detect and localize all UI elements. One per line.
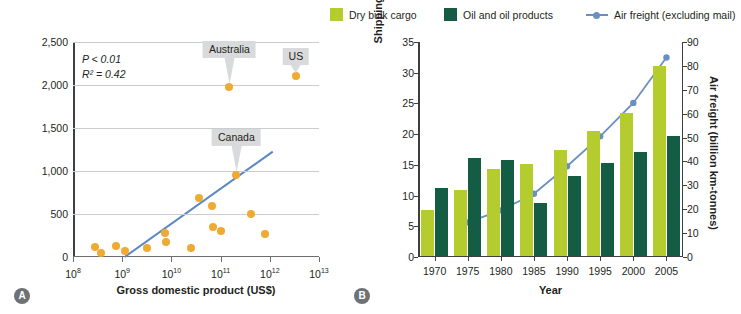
- panel-a-x-tick-mark: [319, 257, 320, 262]
- panel-a-x-axis-title: Gross domestic product (US$): [73, 284, 319, 296]
- panel-a-gridline: [73, 42, 319, 43]
- bar-oil-and-oil-products: [601, 163, 614, 256]
- panel-b-y-tick-mark-left: [414, 196, 418, 197]
- legend-item-label: Air freight (excluding mail): [614, 9, 735, 21]
- panel-b-x-axis-title: Year: [418, 284, 683, 296]
- panel-a-callout-label: Australia: [203, 41, 256, 58]
- panel-a-data-point: [208, 202, 216, 210]
- bar-oil-and-oil-products: [501, 160, 514, 256]
- panel-b-y-tick-label-left: 30: [374, 67, 414, 79]
- air-freight-marker: [663, 54, 669, 60]
- panel-b-y-tick-label-left: 10: [374, 190, 414, 202]
- bar-oil-and-oil-products: [667, 136, 680, 256]
- panel-b-x-tick-label: 1980: [489, 265, 512, 277]
- panel-a-x-tick-label: 1010: [162, 267, 181, 280]
- panel-b-y-tick-label-right: 70: [687, 84, 727, 96]
- panel-a-callout-tail: [291, 65, 301, 73]
- panel-a-tag-letter: A: [18, 291, 25, 301]
- panel-b-x-tick-mark: [534, 257, 535, 261]
- panel-b-y-tick-label-left: 20: [374, 128, 414, 140]
- panel-a-y-tick-label: 2,000: [8, 79, 68, 91]
- panel-b-y-tick-mark-left: [414, 165, 418, 166]
- figure-container: Non-native plant species richness P < 0.…: [0, 0, 741, 314]
- panel-a-plot-area: P < 0.01 R² = 0.42 05001,0001,5002,0002,…: [73, 42, 319, 257]
- bar-oil-and-oil-products: [568, 176, 581, 256]
- panel-a-callout: Australia: [203, 41, 256, 84]
- panel-b-x-tick-label: 1985: [522, 265, 545, 277]
- panel-a-x-tick-mark: [122, 257, 123, 262]
- panel-a-data-point: [225, 83, 233, 91]
- panel-b-x-tick-label: 1990: [555, 265, 578, 277]
- panel-b-y-tick-label-right: 30: [687, 179, 727, 191]
- panel-a-scatter-chart: Non-native plant species richness P < 0.…: [0, 0, 368, 314]
- stat-p-value: P < 0.01: [82, 52, 125, 67]
- panel-b-y-tick-mark-right: [683, 161, 687, 162]
- panel-b-legend: Dry bulk cargoOil and oil productsAir fr…: [368, 8, 741, 26]
- panel-b-plot-area: 0510152025303501020304050607080901970197…: [418, 42, 683, 257]
- bar-oil-and-oil-products: [534, 203, 547, 256]
- panel-b-y-tick-mark-right: [683, 66, 687, 67]
- panel-b-x-tick-label: 1975: [456, 265, 479, 277]
- panel-a-data-point: [232, 171, 240, 179]
- panel-a-tag: A: [14, 288, 30, 304]
- panel-a-x-tick-mark: [73, 257, 74, 262]
- panel-b-y-tick-mark-left: [414, 257, 418, 258]
- legend-item[interactable]: Air freight (excluding mail): [586, 8, 735, 21]
- panel-b-x-tick-mark: [666, 257, 667, 261]
- panel-a-gridline: [73, 85, 319, 86]
- panel-a-gridline: [73, 128, 319, 129]
- panel-b-y-tick-mark-left: [414, 103, 418, 104]
- panel-a-y-tick-label: 2,500: [8, 36, 68, 48]
- panel-a-data-point: [143, 244, 151, 252]
- panel-a-x-tick-mark: [221, 257, 222, 262]
- panel-a-gridline: [73, 171, 319, 172]
- bar-dry-bulk-cargo: [520, 164, 533, 256]
- panel-b-y-tick-label-left: 25: [374, 97, 414, 109]
- panel-a-data-point: [121, 247, 129, 255]
- panel-b-y-tick-label-right: 10: [687, 227, 727, 239]
- panel-a-y-tick-label: 1,000: [8, 165, 68, 177]
- panel-b-y-tick-mark-right: [683, 257, 687, 258]
- panel-a-data-point: [195, 194, 203, 202]
- panel-b-bar-line-chart: Dry bulk cargoOil and oil productsAir fr…: [368, 0, 741, 314]
- bar-dry-bulk-cargo: [587, 131, 600, 256]
- panel-b-x-tick-mark: [501, 257, 502, 261]
- oil-swatch-icon: [444, 8, 457, 21]
- panel-a-data-point: [97, 249, 105, 257]
- panel-a-y-tick-label: 1,500: [8, 122, 68, 134]
- panel-b-y-tick-label-left: 35: [374, 36, 414, 48]
- panel-b-x-tick-mark: [633, 257, 634, 261]
- panel-b-y-tick-label-right: 60: [687, 108, 727, 120]
- panel-b-tag-letter: B: [358, 291, 365, 301]
- panel-a-gridline: [73, 214, 319, 215]
- panel-b-x-tick-mark: [468, 257, 469, 261]
- panel-b-x-tick-label: 1970: [423, 265, 446, 277]
- panel-b-y-tick-label-right: 80: [687, 60, 727, 72]
- panel-a-x-tick-label: 109: [114, 267, 130, 280]
- panel-a-x-tick-label: 1012: [260, 267, 279, 280]
- panel-b-x-tick-mark: [435, 257, 436, 261]
- panel-b-y-tick-mark-right: [683, 114, 687, 115]
- panel-a-data-point: [261, 230, 269, 238]
- panel-a-y-tick-label: 0: [8, 251, 68, 263]
- panel-b-x-tick-label: 1995: [589, 265, 612, 277]
- panel-a-x-tick-label: 108: [65, 267, 81, 280]
- panel-a-callout: US: [283, 48, 310, 73]
- panel-b-y-tick-mark-right: [683, 185, 687, 186]
- panel-b-y-tick-mark-left: [414, 226, 418, 227]
- panel-a-data-point: [162, 238, 170, 246]
- panel-b-y-tick-label-right: 40: [687, 155, 727, 167]
- panel-b-y-tick-mark-left: [414, 42, 418, 43]
- legend-item[interactable]: Oil and oil products: [444, 8, 553, 21]
- panel-b-y-tick-mark-right: [683, 90, 687, 91]
- panel-b-y-tick-mark-right: [683, 42, 687, 43]
- panel-a-statistics-annotation: P < 0.01 R² = 0.42: [82, 52, 125, 82]
- panel-b-y-tick-mark-left: [414, 134, 418, 135]
- bar-dry-bulk-cargo: [620, 113, 633, 256]
- panel-a-y-tick-label: 500: [8, 208, 68, 220]
- air-freight-marker: [630, 100, 636, 106]
- legend-item-label: Oil and oil products: [463, 9, 553, 21]
- bar-dry-bulk-cargo: [554, 150, 567, 256]
- panel-a-data-point: [292, 72, 300, 80]
- bar-oil-and-oil-products: [468, 158, 481, 256]
